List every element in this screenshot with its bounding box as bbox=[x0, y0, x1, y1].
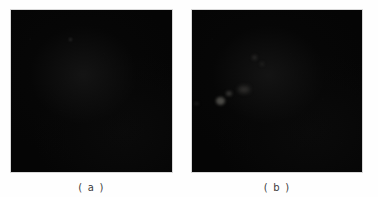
panel-grain-a bbox=[11, 10, 172, 172]
faint-spot-b-2 bbox=[226, 91, 232, 96]
faint-spot-b-1 bbox=[216, 97, 225, 105]
panel-group-b: ( b ) bbox=[191, 9, 363, 194]
panel-caption-a: ( a ) bbox=[10, 182, 173, 194]
faint-mote-a bbox=[69, 38, 72, 41]
panel-grain-b bbox=[192, 10, 362, 172]
image-panel-b bbox=[191, 9, 363, 173]
panel-caption-b: ( b ) bbox=[191, 182, 363, 194]
faint-spot-b-3 bbox=[238, 86, 250, 93]
figure-container: ( a ) ( b ) bbox=[0, 0, 378, 197]
panel-group-a: ( a ) bbox=[10, 9, 173, 194]
image-panel-a bbox=[10, 9, 173, 173]
faint-spot-b-5 bbox=[260, 62, 264, 66]
faint-spot-b-4 bbox=[252, 55, 257, 60]
faint-spot-b-6 bbox=[194, 102, 199, 105]
